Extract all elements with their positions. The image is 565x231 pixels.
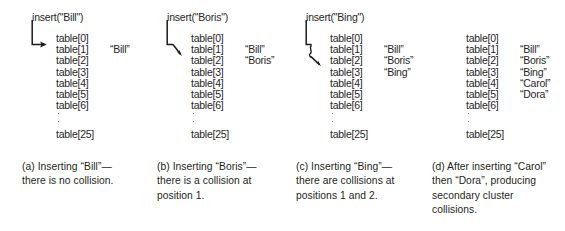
caption-line: then “Dora”, producing <box>432 174 564 188</box>
slot-label: table[2] <box>56 55 105 66</box>
slot-row: table[2]“Boris” <box>191 55 301 66</box>
slot-row: table[6] <box>56 100 166 111</box>
caption-line: position 1. <box>157 189 287 203</box>
slot-value: “Boris” <box>515 55 549 66</box>
slot-last-label: table[25] <box>330 128 368 140</box>
caption-line: positions 1 and 2. <box>296 189 426 203</box>
slot-value: “Boris” <box>379 55 413 66</box>
caption-line: (d) After inserting “Carol” <box>432 160 564 174</box>
caption-line: there is no collision. <box>22 174 148 188</box>
slot-last-label: table[25] <box>191 128 229 140</box>
slot-value: “Dora” <box>515 89 548 100</box>
slot-row: table[2]“Boris” <box>466 55 565 66</box>
vertical-ellipsis-icon <box>332 113 342 129</box>
vertical-ellipsis-icon <box>468 113 478 129</box>
caption-line: there is a collision at <box>157 174 287 188</box>
slot-list-c: table[0] table[1]“Bill” table[2]“Boris” … <box>330 33 440 111</box>
slot-value: “Bing” <box>379 67 411 78</box>
slot-last-label: table[25] <box>466 128 504 140</box>
panel-a: insert("Bill") table[0] table[1]“Bill” t… <box>22 0 162 231</box>
vertical-ellipsis-icon <box>58 113 68 129</box>
caption-line: collisions. <box>432 203 564 217</box>
slot-label: table[6] <box>330 100 379 111</box>
slot-label: table[2] <box>191 55 240 66</box>
caption-line: (c) Inserting “Bing”— <box>296 160 426 174</box>
slot-label: table[2] <box>466 55 515 66</box>
slot-row: table[6] <box>466 100 565 111</box>
caption-c: (c) Inserting “Bing”— there are collisio… <box>296 160 426 203</box>
slot-label: table[6] <box>466 100 515 111</box>
slot-value: “Bill” <box>105 44 130 55</box>
slot-row: table[6] <box>330 100 440 111</box>
hash-table-linear-probing-figure: insert("Bill") table[0] table[1]“Bill” t… <box>0 0 565 231</box>
slot-list-d: table[0] table[1]“Bill” table[2]“Boris” … <box>466 33 565 111</box>
vertical-ellipsis-icon <box>193 113 203 129</box>
slot-value: “Boris” <box>240 55 274 66</box>
caption-a: (a) Inserting “Bill”— there is no collis… <box>22 160 148 189</box>
caption-line: secondary cluster <box>432 189 564 203</box>
slot-list-b: table[0] table[1]“Bill” table[2]“Boris” … <box>191 33 301 111</box>
caption-line: (b) Inserting “Boris”— <box>157 160 287 174</box>
slot-row: table[2]“Boris” <box>330 55 440 66</box>
caption-b: (b) Inserting “Boris”— there is a collis… <box>157 160 287 203</box>
slot-last-label: table[25] <box>56 128 94 140</box>
caption-line: (a) Inserting “Bill”— <box>22 160 148 174</box>
slot-label: table[6] <box>191 100 240 111</box>
caption-line: there are collisions at <box>296 174 426 188</box>
slot-list-a: table[0] table[1]“Bill” table[2] table[3… <box>56 33 166 111</box>
slot-label: table[6] <box>56 100 105 111</box>
slot-row: table[2] <box>56 55 166 66</box>
slot-row: table[6] <box>191 100 301 111</box>
slot-label: table[2] <box>330 55 379 66</box>
caption-d: (d) After inserting “Carol” then “Dora”,… <box>432 160 564 218</box>
